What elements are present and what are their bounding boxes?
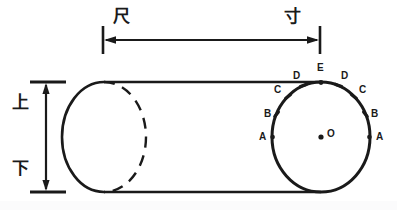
point-tick-C-left — [286, 95, 291, 99]
circle-marker-points — [270, 80, 371, 139]
point-tick-C-right — [351, 95, 356, 99]
circle-marker-ticks — [275, 84, 367, 116]
horizontal-dim-left-label: 尺 — [113, 8, 130, 25]
point-tick-D-left — [300, 84, 306, 86]
vertical-dim-arrow-bottom — [42, 180, 49, 191]
circle-point-label-C-right: C — [359, 85, 366, 95]
vertical-dim-bottom-label: 下 — [12, 160, 29, 177]
horizontal-dim-arrow-right — [307, 36, 319, 44]
diagram-canvas: 尺 寸 上 下 O E D C B A D C B A — [0, 0, 397, 210]
cylinder-body-group — [62, 82, 370, 192]
circle-center-label-O: O — [327, 129, 335, 139]
page-edge-strip — [0, 201, 397, 210]
point-tick-D-right — [336, 84, 342, 86]
circle-apex-label-E: E — [317, 63, 324, 73]
horizontal-dim-right-label: 寸 — [284, 8, 301, 25]
vertical-dimension-group — [30, 82, 66, 192]
circle-point-label-A-right: A — [376, 132, 383, 142]
circle-point-label-D-left: D — [293, 71, 300, 81]
left-end-ellipse-solid — [62, 82, 104, 192]
circle-point-label-D-right: D — [341, 71, 348, 81]
horizontal-dimension-group — [103, 26, 320, 54]
point-marker-E-apex — [319, 80, 324, 85]
cylinder-diagram-svg — [0, 0, 397, 210]
circle-point-label-B-left: B — [264, 109, 271, 119]
circle-point-label-C-left: C — [274, 85, 281, 95]
circle-point-label-A-left: A — [259, 132, 266, 142]
point-marker-O-center — [318, 134, 323, 139]
point-marker-A-right — [367, 135, 372, 140]
left-end-ellipse-dashed — [104, 82, 146, 192]
circle-point-label-B-right: B — [371, 109, 378, 119]
point-marker-A-left — [270, 135, 275, 140]
vertical-dim-arrow-top — [42, 83, 49, 94]
vertical-dim-top-label: 上 — [12, 94, 29, 111]
horizontal-dim-arrow-left — [104, 36, 116, 44]
